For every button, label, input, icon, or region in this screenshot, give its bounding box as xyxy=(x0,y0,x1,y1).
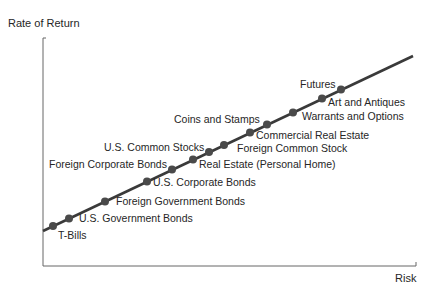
point-foreign-gov-bonds xyxy=(101,198,109,206)
point-us-corp-bonds xyxy=(143,178,151,186)
label-warrants-options: Warrants and Options xyxy=(302,110,404,122)
label-tbills: T-Bills xyxy=(58,229,87,241)
point-real-estate-home xyxy=(189,156,197,164)
label-us-common-stocks: U.S. Common Stocks xyxy=(104,141,204,153)
point-tbills xyxy=(49,222,57,230)
label-real-estate-home: Real Estate (Personal Home) xyxy=(199,158,336,170)
y-axis-label: Rate of Return xyxy=(8,17,80,29)
label-us-corp-bonds: U.S. Corporate Bonds xyxy=(153,176,256,188)
point-commercial-real-estate xyxy=(246,129,254,137)
label-foreign-corp-bonds: Foreign Corporate Bonds xyxy=(49,158,167,170)
label-futures: Futures xyxy=(300,78,336,90)
risk-return-diagram xyxy=(0,0,435,290)
label-us-gov-bonds: U.S. Government Bonds xyxy=(79,212,193,224)
x-axis xyxy=(43,262,416,266)
label-art-antiques: Art and Antiques xyxy=(328,96,405,108)
label-commercial-real-estate: Commercial Real Estate xyxy=(256,129,369,141)
label-foreign-common-stock: Foreign Common Stock xyxy=(237,142,347,154)
point-foreign-common-stock xyxy=(220,141,228,149)
label-coins-stamps: Coins and Stamps xyxy=(174,113,260,125)
point-foreign-corp-bonds xyxy=(168,166,176,174)
point-us-common-stocks xyxy=(205,148,213,156)
point-futures xyxy=(337,86,345,94)
label-foreign-gov-bonds: Foreign Government Bonds xyxy=(116,195,245,207)
x-axis-label: Risk xyxy=(395,272,416,284)
point-warrants-options xyxy=(289,109,297,117)
point-us-gov-bonds xyxy=(65,215,73,223)
point-coins-stamps xyxy=(263,121,271,129)
point-art-antiques xyxy=(318,95,326,103)
